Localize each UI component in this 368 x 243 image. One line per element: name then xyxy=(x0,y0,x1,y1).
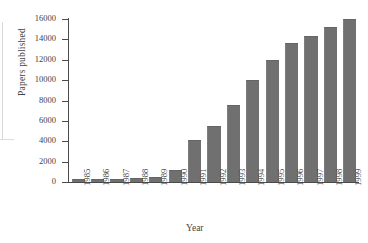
y-tick-label: 16000 xyxy=(10,14,56,23)
bar xyxy=(246,80,259,182)
y-tick-label: 14000 xyxy=(10,34,56,43)
bar xyxy=(285,43,298,182)
x-tick-label: 1990 xyxy=(179,169,189,186)
x-tick-label: 1986 xyxy=(101,169,111,186)
bar-chart: Papers published 02000400060008000100001… xyxy=(0,0,368,243)
y-tick-label: 4000 xyxy=(10,136,56,145)
y-tick-label: 0 xyxy=(10,177,56,186)
x-tick-label: 1987 xyxy=(121,169,131,186)
x-tick-label: 1998 xyxy=(334,169,344,186)
x-tick-label: 1997 xyxy=(315,169,325,186)
bar xyxy=(324,27,337,182)
y-tick-label: 6000 xyxy=(10,116,56,125)
x-tick-label: 1989 xyxy=(159,169,169,186)
y-tick-label: 2000 xyxy=(10,157,56,166)
bars-layer xyxy=(68,19,359,182)
x-tick-label: 1996 xyxy=(295,169,305,186)
x-tick-label: 1995 xyxy=(276,169,286,186)
y-tick-label-wrap: 4000 xyxy=(10,136,56,146)
x-tick-label: 1999 xyxy=(353,169,363,186)
x-tick-label: 1994 xyxy=(256,169,266,186)
y-tick-label-wrap: 12000 xyxy=(10,55,56,65)
y-tick-label-wrap: 6000 xyxy=(10,116,56,126)
y-tick-label: 10000 xyxy=(10,75,56,84)
x-tick-label: 1992 xyxy=(218,169,228,186)
x-tick-label: 1988 xyxy=(140,169,150,186)
x-tick-label: 1985 xyxy=(82,169,92,186)
y-tick-label-wrap: 16000 xyxy=(10,14,56,24)
y-tick-label-wrap: 10000 xyxy=(10,75,56,85)
x-tick-label: 1993 xyxy=(237,169,247,186)
y-tick-mark xyxy=(62,182,69,183)
y-tick-label-wrap: 8000 xyxy=(10,96,56,106)
y-tick-label-wrap: 0 xyxy=(10,177,56,187)
bar xyxy=(304,36,317,182)
bar xyxy=(266,60,279,182)
x-tick-label: 1991 xyxy=(198,169,208,186)
scan-artifact-line xyxy=(2,22,3,140)
bar xyxy=(343,19,356,182)
y-tick-label: 8000 xyxy=(10,96,56,105)
y-tick-label-wrap: 2000 xyxy=(10,157,56,167)
y-tick-label: 12000 xyxy=(10,55,56,64)
y-tick-label-wrap: 14000 xyxy=(10,34,56,44)
x-axis-title: Year xyxy=(186,223,204,233)
